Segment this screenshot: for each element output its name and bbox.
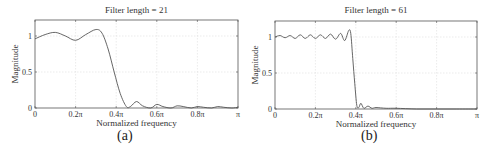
y-axis-ticks-b: 00.51: [262, 33, 477, 114]
x-axis-ticks-a: 00.2π0.4π0.6π0.8ππ: [33, 20, 240, 119]
axes-frame-a: [35, 20, 238, 108]
grid-lines-b: [275, 21, 477, 109]
x-tick-label: 0: [273, 111, 277, 120]
x-tick-label: π: [236, 110, 240, 119]
grid-lines-a: [35, 20, 238, 108]
y-tick-label: 0: [268, 105, 272, 114]
x-tick-label: 0.8π: [190, 110, 204, 119]
x-tick-label: π: [475, 111, 479, 120]
magnitude-curve-b: [275, 30, 477, 109]
x-tick-label: 0: [33, 110, 37, 119]
chart-panel-a: Filter length = 2100.2π0.4π0.6π0.8ππ00.5…: [0, 0, 245, 153]
y-axis-label-b: Magnitude: [250, 46, 260, 85]
x-axis-label-a: Normalized frequency: [96, 118, 177, 128]
y-tick-label: 0.5: [22, 68, 32, 77]
y-axis-label-a: Magnitude: [10, 45, 20, 84]
x-tick-label: 0.2π: [69, 110, 83, 119]
y-axis-ticks-a: 00.51: [22, 32, 238, 113]
chart-panel-b: Filter length = 6100.2π0.4π0.6π0.8ππ00.5…: [245, 0, 490, 153]
x-tick-label: 0.2π: [308, 111, 322, 120]
axes-frame-b: [275, 21, 477, 109]
x-tick-label: 0.8π: [430, 111, 444, 120]
y-tick-label: 1: [28, 32, 32, 41]
panel-caption-b: (b): [361, 128, 377, 144]
y-tick-label: 0.5: [262, 69, 272, 78]
panel-caption-a: (a): [117, 128, 133, 144]
y-tick-label: 0: [28, 104, 32, 113]
chart-title-a: Filter length = 21: [105, 5, 168, 15]
y-tick-label: 1: [268, 33, 272, 42]
chart-title-b: Filter length = 61: [345, 5, 408, 15]
x-axis-ticks-b: 00.2π0.4π0.6π0.8ππ: [273, 21, 479, 120]
magnitude-curve-a: [35, 29, 238, 108]
